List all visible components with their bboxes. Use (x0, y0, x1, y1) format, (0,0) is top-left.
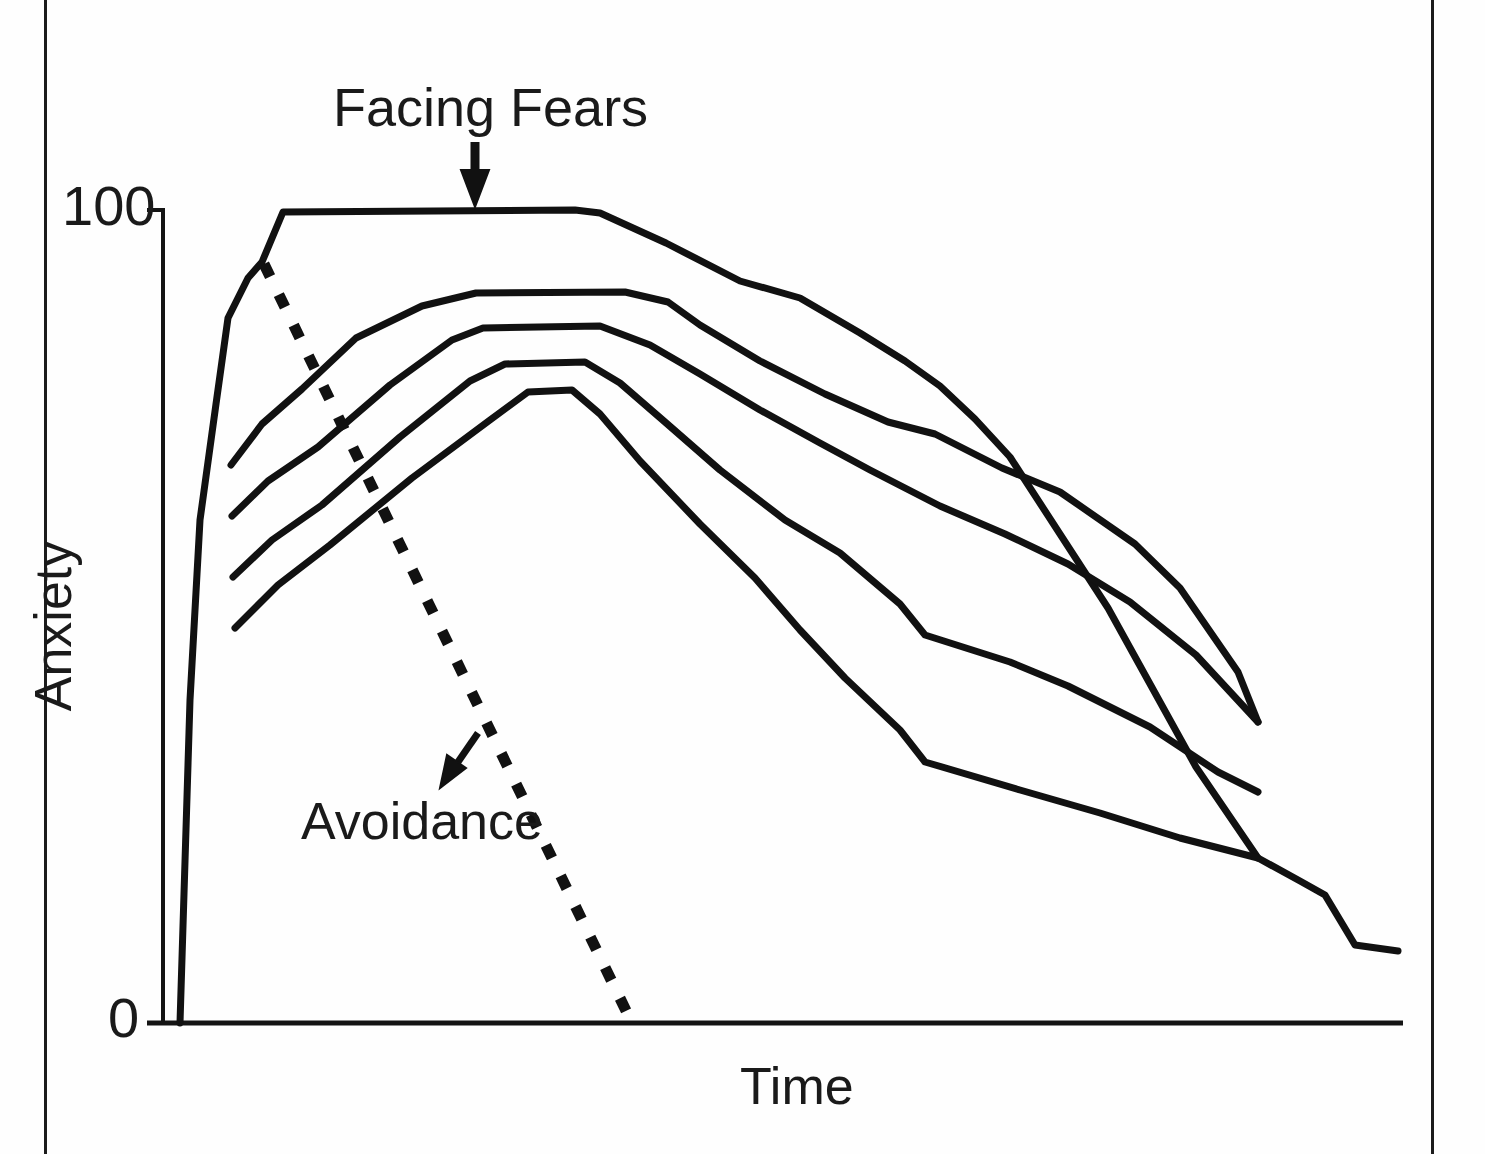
x-axis-title: Time (740, 1060, 854, 1112)
anxiety-curve-4 (233, 362, 1258, 792)
anxiety-curve-2 (231, 292, 1258, 722)
anxiety-time-line-chart (0, 0, 1485, 1154)
y-axis-tick-label-0: 0 (108, 990, 139, 1046)
anxiety-curve-1 (180, 210, 1258, 1023)
annotation-label-avoidance: Avoidance (301, 795, 543, 847)
anxiety-curve-5 (235, 390, 1398, 951)
annotation-label-facing-fears: Facing Fears (333, 80, 648, 134)
up-right-arrow-icon (440, 733, 478, 788)
y-axis-title: Anxiety (27, 541, 79, 712)
y-axis-tick-label-100: 100 (62, 178, 155, 234)
figure-page: 100 0 Anxiety Time Facing Fears Avoidanc… (0, 0, 1485, 1154)
down-arrow-icon (461, 142, 489, 207)
